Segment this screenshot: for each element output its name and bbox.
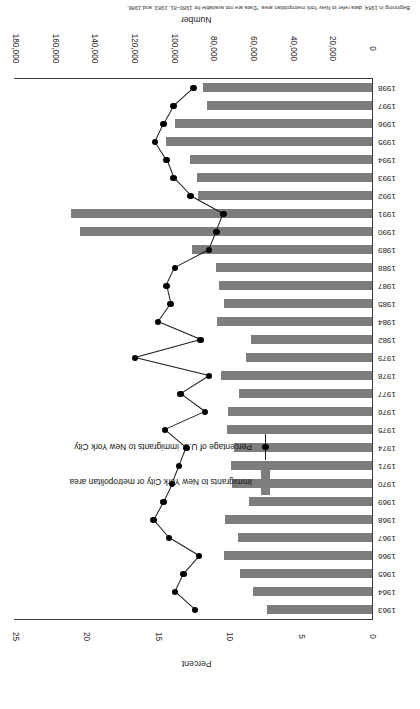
- bar-swatch-icon: [261, 469, 270, 495]
- data-point-1969: [160, 499, 166, 505]
- number-tick-40000: 40,000: [288, 25, 297, 73]
- line-segment: [169, 537, 200, 556]
- number-tick-20000: 20,000: [328, 25, 337, 73]
- number-tick-100000: 100,000: [169, 25, 178, 73]
- number-tick-120000: 120,000: [130, 25, 139, 73]
- number-tick-180000: 180,000: [11, 25, 20, 73]
- bar-1994: [190, 156, 372, 165]
- data-point-1985: [167, 301, 173, 307]
- year-label-1968: 1968: [378, 516, 418, 525]
- bar-1996: [175, 120, 372, 129]
- bar-1964: [253, 588, 372, 597]
- percent-tick-15: 15: [153, 617, 162, 657]
- bar-1966: [224, 552, 372, 561]
- year-label-1963: 1963: [378, 606, 418, 615]
- number-axis-title: Number: [181, 15, 212, 25]
- bar-1992: [198, 192, 372, 201]
- percent-tick-25: 25: [11, 617, 20, 657]
- year-label-1995: 1995: [378, 138, 418, 147]
- bar-1969: [249, 498, 372, 507]
- year-label-1978: 1978: [378, 372, 418, 381]
- line-segment: [180, 375, 209, 394]
- number-tick-60000: 60,000: [249, 25, 258, 73]
- data-point-1984: [155, 319, 161, 325]
- line-segment: [135, 339, 201, 358]
- bar-1963: [267, 606, 372, 615]
- year-label-1984: 1984: [378, 318, 418, 327]
- data-point-1992: [187, 193, 193, 199]
- year-label-1998: 1998: [378, 84, 418, 93]
- bar-1979: [246, 354, 372, 363]
- data-point-1977: [177, 391, 183, 397]
- year-label-1982: 1982: [378, 336, 418, 345]
- data-point-1996: [160, 121, 166, 127]
- legend-label-bars: Immigrants to New York City or metropoli…: [70, 477, 252, 487]
- data-point-1994: [163, 157, 169, 163]
- data-point-1998: [190, 85, 196, 91]
- year-label-1993: 1993: [378, 174, 418, 183]
- rotated-figure-container: 0510152025 020,00040,00060,00080,000100,…: [0, 0, 420, 709]
- bar-1968: [225, 516, 372, 525]
- year-label-1988: 1988: [378, 264, 418, 273]
- legend-item-line: Percentage of U.S. immigrants to New Yor…: [60, 434, 270, 460]
- data-point-1963: [192, 607, 198, 613]
- line-segment: [158, 321, 201, 340]
- data-point-1965: [180, 571, 186, 577]
- bar-1988: [216, 264, 372, 273]
- year-label-1990: 1990: [378, 228, 418, 237]
- bar-1982: [251, 336, 372, 345]
- year-label-1976: 1976: [378, 408, 418, 417]
- percent-axis-title: Percent: [182, 659, 212, 669]
- chart-legend: Immigrants to New York City or metropoli…: [60, 425, 270, 495]
- line-point-icon: [261, 434, 270, 460]
- year-label-1974: 1974: [378, 444, 418, 453]
- year-label-1997: 1997: [378, 102, 418, 111]
- data-point-1968: [150, 517, 156, 523]
- year-label-1985: 1985: [378, 300, 418, 309]
- data-point-1987: [163, 283, 169, 289]
- chart-footnote: Beginning in 1984, data refer to New Yor…: [127, 5, 410, 11]
- bar-1967: [238, 534, 372, 543]
- year-label-1989: 1989: [378, 246, 418, 255]
- year-label-1991: 1991: [378, 210, 418, 219]
- bar-1998: [203, 84, 372, 93]
- bar-1978: [221, 372, 372, 381]
- data-point-1990: [213, 229, 219, 235]
- year-label-1992: 1992: [378, 192, 418, 201]
- year-label-1977: 1977: [378, 390, 418, 399]
- data-point-1997: [170, 103, 176, 109]
- year-label-1996: 1996: [378, 120, 418, 129]
- year-label-1967: 1967: [378, 534, 418, 543]
- number-tick-0: 0: [368, 25, 377, 73]
- line-segment: [135, 357, 210, 376]
- bar-1965: [240, 570, 372, 579]
- immigrants-to-nyc-chart: 0510152025 020,00040,00060,00080,000100,…: [0, 0, 420, 709]
- bar-1984: [217, 318, 372, 327]
- number-tick-140000: 140,000: [90, 25, 99, 73]
- year-label-1994: 1994: [378, 156, 418, 165]
- bar-1977: [239, 390, 372, 399]
- bar-1976: [228, 408, 372, 417]
- bar-1993: [197, 174, 372, 183]
- year-label-1970: 1970: [378, 480, 418, 489]
- data-point-1967: [166, 535, 172, 541]
- data-point-1966: [196, 553, 202, 559]
- percent-tick-20: 20: [82, 617, 91, 657]
- bar-1989: [192, 246, 372, 255]
- data-point-1976: [202, 409, 208, 415]
- year-label-1964: 1964: [378, 588, 418, 597]
- year-label-1971: 1971: [378, 462, 418, 471]
- percent-tick-0: 0: [368, 617, 377, 657]
- year-label-1987: 1987: [378, 282, 418, 291]
- data-point-1979: [132, 355, 138, 361]
- percent-tick-5: 5: [296, 617, 305, 657]
- bar-1985: [224, 300, 372, 309]
- data-point-1993: [170, 175, 176, 181]
- bar-1987: [219, 282, 372, 291]
- line-segment: [180, 393, 205, 412]
- data-point-1988: [172, 265, 178, 271]
- bar-1995: [166, 138, 372, 147]
- data-point-1991: [220, 211, 226, 217]
- legend-item-bars: Immigrants to New York City or metropoli…: [60, 469, 270, 495]
- data-point-1978: [206, 373, 212, 379]
